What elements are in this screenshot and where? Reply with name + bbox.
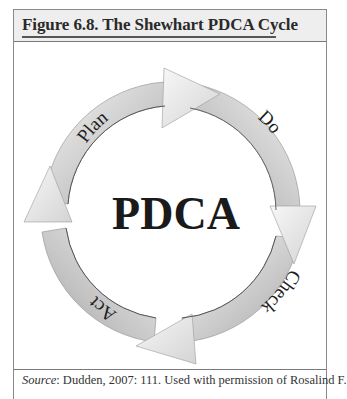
caption-prefix: Source [22, 373, 56, 387]
center-label: PDCA [112, 188, 240, 239]
figure-header: Figure 6.8. The Shewhart PDCA Cycle [14, 10, 326, 42]
caption-separator [14, 369, 326, 370]
act-arrow [42, 228, 156, 342]
figure-caption: Source: Dudden, 2007: 111. Used with per… [22, 373, 347, 388]
title-underline [22, 36, 276, 38]
figure-frame: Figure 6.8. The Shewhart PDCA Cycle [13, 9, 327, 399]
caption-text: : Dudden, 2007: 111. Used with permissio… [56, 373, 346, 387]
figure-title: Figure 6.8. The Shewhart PDCA Cycle [22, 15, 298, 35]
arrowhead-top [162, 68, 220, 128]
plan-arrow [44, 82, 165, 204]
pdca-diagram: Plan Do Check Act PDCA [14, 42, 326, 370]
